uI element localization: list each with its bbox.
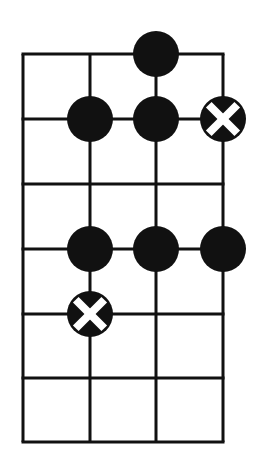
- finger-dot: [133, 31, 179, 77]
- finger-dot: [133, 226, 179, 272]
- x-marker-icon: [67, 291, 113, 337]
- finger-dot: [67, 96, 113, 142]
- fretboard-diagram: [0, 0, 266, 471]
- finger-dot: [133, 96, 179, 142]
- finger-dot: [67, 226, 113, 272]
- x-marker-icon: [200, 96, 246, 142]
- finger-dot: [200, 226, 246, 272]
